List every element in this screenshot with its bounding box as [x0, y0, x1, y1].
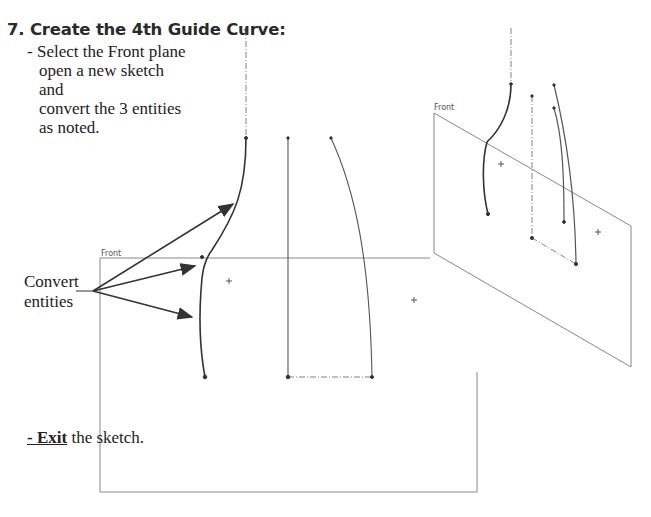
convert-entities-callout: Convert entities	[24, 272, 79, 312]
guide-curves-iso	[483, 28, 601, 266]
exit-instruction: - Exit the sketch.	[27, 428, 144, 448]
front-plane-label: Front	[101, 249, 121, 258]
exit-keyword: Exit	[37, 428, 67, 447]
callout-line-1: Convert	[24, 272, 79, 292]
callout-line-2: entities	[24, 292, 79, 312]
exit-rest: the sketch.	[67, 428, 144, 447]
exit-bullet: -	[27, 428, 37, 447]
iso-front-plane-label: Front	[434, 103, 454, 112]
